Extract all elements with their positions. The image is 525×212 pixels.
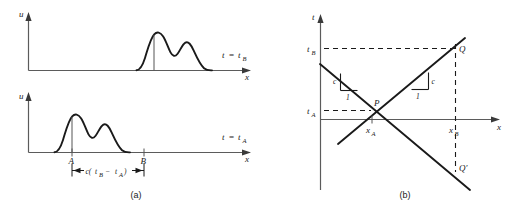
tick-label-ta: t A xyxy=(307,106,316,118)
dimension-label-term1-sub: B xyxy=(99,171,103,178)
figure-root: u x t = t B u xyxy=(0,0,525,212)
bottom-time-value-sub: A xyxy=(242,137,247,144)
bottom-time-var: t xyxy=(222,132,225,142)
top-time-value: t xyxy=(238,50,241,60)
top-time-value-sub: B xyxy=(243,55,247,62)
point-label-q-prime: Q′ xyxy=(459,163,468,173)
panel-b-t-axis-label: t xyxy=(312,12,315,22)
slope-triangle-right-one-label: 1 xyxy=(416,92,420,101)
slope-triangle-left-one-label: 1 xyxy=(346,93,350,102)
dimension-label-suffix: ) xyxy=(123,167,127,176)
tick-label-xb-sub: B xyxy=(455,130,459,137)
tick-label-ta-base: t xyxy=(307,106,310,116)
top-u-axis-label: u xyxy=(19,9,24,19)
top-time-var: t xyxy=(222,50,225,60)
panel-a-caption: (a) xyxy=(131,190,142,200)
top-time-annotation: t = t B xyxy=(222,50,247,62)
slope-triangle-right-c-label: c xyxy=(432,77,436,86)
tick-label-xa-sub: A xyxy=(371,130,376,137)
top-u-axis-arrowhead xyxy=(25,12,31,21)
bottom-time-equals: = xyxy=(229,132,234,142)
bottom-time-value: t xyxy=(238,132,241,142)
bottom-wave-pulse-curve xyxy=(55,114,131,152)
figure-svg: u x t = t B u xyxy=(0,0,525,212)
tick-label-xa: x A xyxy=(365,125,376,137)
panel-a-top-subplot: u x t = t B xyxy=(19,9,251,82)
characteristic-line-left xyxy=(320,64,470,190)
dimension-label-term2: t xyxy=(115,167,118,176)
bottom-u-axis-arrowhead xyxy=(25,92,31,101)
top-time-equals: = xyxy=(229,50,234,60)
panel-b-t-axis-arrowhead xyxy=(317,14,323,23)
bottom-time-annotation: t = t A xyxy=(222,132,247,144)
point-label-p: P xyxy=(373,98,380,108)
panel-b-x-axis-label: x xyxy=(496,122,501,132)
dimension-line-group: c( t B − t A ) xyxy=(72,164,144,178)
top-x-axis-label: x xyxy=(244,72,249,82)
top-wave-pulse-curve xyxy=(137,32,213,70)
tick-label-xb: x B xyxy=(448,125,459,137)
tick-label-tb: t B xyxy=(307,44,316,56)
tick-label-xa-base: x xyxy=(365,125,370,135)
dimension-arrowhead-right xyxy=(136,168,143,173)
panel-b-caption: (b) xyxy=(400,190,411,200)
panel-a-bottom-subplot: u x A B c( t B − t A ) xyxy=(19,91,251,178)
dimension-label-prefix: c( xyxy=(86,167,92,176)
dimension-label-term1: t xyxy=(95,167,98,176)
tick-label-tb-sub: B xyxy=(312,49,316,56)
slope-triangle-right: c 1 xyxy=(412,73,436,101)
point-label-q: Q xyxy=(459,44,466,54)
tick-label-xb-base: x xyxy=(448,125,453,135)
bottom-u-axis-label: u xyxy=(19,91,24,101)
dimension-label-minus: − xyxy=(106,167,110,176)
tick-label-tb-base: t xyxy=(307,44,310,54)
point-label-a: A xyxy=(68,156,75,166)
dimension-label-term2-sub: A xyxy=(118,171,123,178)
tick-label-ta-sub: A xyxy=(311,111,316,118)
dimension-arrowhead-left xyxy=(74,168,81,173)
panel-b: c 1 c 1 t x t B t A xyxy=(307,12,501,190)
bottom-x-axis-label: x xyxy=(244,154,249,164)
